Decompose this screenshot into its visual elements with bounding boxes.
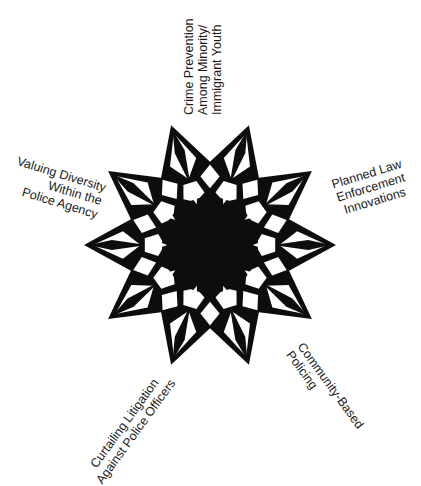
label-crime-prevention: Crime Prevention Among Minority/ Immigra… <box>182 18 224 115</box>
